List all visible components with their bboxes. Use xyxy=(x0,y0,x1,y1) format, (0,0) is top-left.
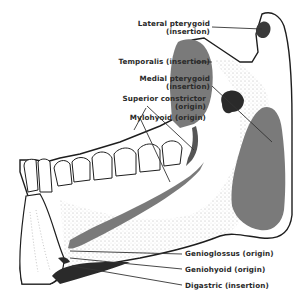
mandible-diagram: Lateral pterygoid (insertion) Temporalis… xyxy=(0,0,304,305)
label-subtext: (insertion) xyxy=(70,28,210,36)
label-text: Digastric (insertion) xyxy=(185,282,269,290)
label-text: Genioglossus (origin) xyxy=(185,250,274,258)
label-geniohyoid: Geniohyoid (origin) xyxy=(185,266,265,274)
label-medial-pterygoid: Medial pterygoid (insertion) xyxy=(60,75,210,91)
mandible-illustration xyxy=(0,0,304,305)
label-text: Temporalis (insertion) xyxy=(60,58,210,66)
label-digastric: Digastric (insertion) xyxy=(185,282,269,290)
label-temporalis: Temporalis (insertion) xyxy=(60,58,210,66)
label-mylohyoid: Mylohyoid (origin) xyxy=(40,114,206,122)
label-text: Mylohyoid (origin) xyxy=(40,114,206,122)
label-lateral-pterygoid: Lateral pterygoid (insertion) xyxy=(70,20,210,36)
label-superior-constrictor: Superior constrictor (origin) xyxy=(40,95,206,111)
label-subtext: (origin) xyxy=(40,103,206,111)
label-genioglossus: Genioglossus (origin) xyxy=(185,250,274,258)
label-text: Geniohyoid (origin) xyxy=(185,266,265,274)
label-subtext: (insertion) xyxy=(60,83,210,91)
